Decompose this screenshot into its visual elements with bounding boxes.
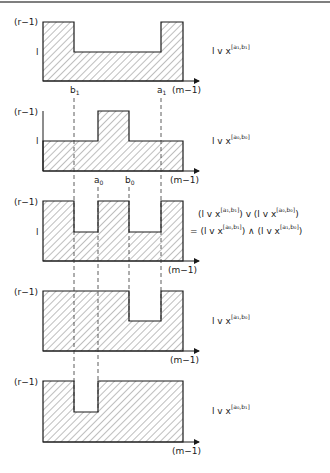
y-label-r-minus-1: (r−1) [14, 287, 38, 297]
caption: l v x[a₁,b₀] [212, 313, 250, 326]
x-label-m-minus-1: (m−1) [172, 446, 201, 456]
hatched-region [43, 22, 183, 81]
hatched-region [43, 201, 183, 261]
x-label-a1: a1 [157, 85, 167, 96]
caption-line-2: = (l v x[a₀,b₁]) ∧ (l v x[a₁,b₀]) [190, 223, 302, 236]
caption: l v x[a₀,b₁] [212, 403, 250, 416]
y-label-l: l [36, 136, 39, 146]
caption-line-1: (l v x[a₁,b₁]) v (l v x[a₀,b₀]) [198, 206, 299, 219]
y-label-r-minus-1: (r−1) [14, 197, 38, 207]
x-label-a0: a0 [94, 175, 104, 186]
hatched-region [43, 111, 183, 171]
panel-4: (r−1) (m−1) l v x[a₁,b₀] [14, 287, 250, 365]
y-label-r-minus-1: (r−1) [14, 17, 38, 27]
y-label-l: l [36, 227, 39, 237]
x-label-b0: b0 [125, 175, 135, 186]
x-label-m-minus-1: (m−1) [168, 265, 197, 275]
y-label-r-minus-1: (r−1) [14, 107, 38, 117]
x-label-b1: b1 [70, 85, 80, 96]
panel-3: (r−1) l (m−1) (l v x[a₁,b₁]) v (l v x[a₀… [14, 197, 302, 275]
panel-1: (r−1) l b1 a1 (m−1) l v x[a₁,b₁] [14, 17, 250, 96]
y-label-l: l [36, 47, 39, 57]
hatched-region [43, 381, 183, 442]
panel-2: (r−1) l a0 b0 (m−1) l v x[a₀,b₀] [14, 107, 250, 186]
panel-5: (r−1) (m−1) l v x[a₀,b₁] [14, 377, 250, 456]
caption: l v x[a₁,b₁] [212, 43, 250, 56]
x-label-m-minus-1: (m−1) [170, 175, 199, 185]
hatched-region [43, 291, 183, 351]
y-label-r-minus-1: (r−1) [14, 377, 38, 387]
x-label-m-minus-1: (m−1) [172, 85, 201, 95]
x-label-m-minus-1: (m−1) [170, 355, 199, 365]
diagram-canvas: (r−1) l b1 a1 (m−1) l v x[a₁,b₁] (r−1) l… [0, 0, 330, 473]
caption: l v x[a₀,b₀] [212, 133, 250, 146]
